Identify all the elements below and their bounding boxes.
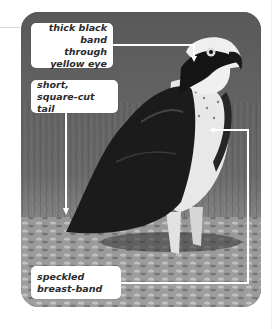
page-right-rule — [271, 0, 272, 329]
label-tail: short, square-cut tail — [31, 80, 118, 113]
osprey-photo: thick black band through yellow eye shor… — [21, 12, 261, 307]
label-tail-text: short, square-cut tail — [37, 79, 112, 115]
label-breast-band: speckled breast-band — [31, 266, 121, 299]
label-breast-band-text: speckled breast-band — [37, 271, 115, 295]
label-eye-band: thick black band through yellow eye — [31, 23, 113, 68]
page-edge-line — [0, 27, 20, 28]
label-eye-band-text: thick black band through yellow eye — [37, 22, 107, 70]
